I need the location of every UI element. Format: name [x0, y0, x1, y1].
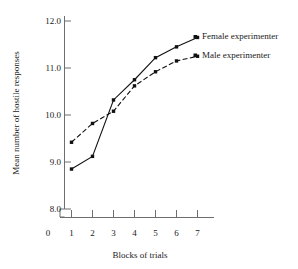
data-point — [70, 167, 73, 170]
legend-label-female: Female experimenter — [202, 31, 278, 41]
y-tick-label-2: 10.0 — [45, 110, 61, 120]
series-line — [72, 37, 198, 169]
series-male — [70, 55, 199, 144]
data-point — [70, 141, 73, 144]
x-tick-label-3: 4 — [132, 228, 137, 238]
data-point — [112, 110, 115, 113]
series-line — [72, 56, 198, 142]
data-point — [91, 155, 94, 158]
x-tick-marks — [72, 210, 198, 218]
line-chart-svg: 12.0 11.0 10.0 9.0 8.0 0 1 2 3 4 5 6 7 B… — [0, 0, 298, 269]
y-tick-label-4: 12.0 — [45, 16, 61, 26]
x-origin-label: 0 — [46, 228, 51, 238]
y-tick-label-0: 8.0 — [50, 204, 62, 214]
data-point — [133, 78, 136, 81]
series-layer — [70, 36, 199, 171]
y-tick-label-1: 9.0 — [50, 157, 62, 167]
data-point — [175, 59, 178, 62]
y-tick-label-3: 11.0 — [46, 63, 62, 73]
series-female — [70, 36, 199, 171]
y-axis-title: Mean number of hostile responses — [11, 51, 21, 175]
legend: Female experimenter Male experimenter — [194, 31, 279, 60]
y-tick-marks — [65, 21, 72, 209]
legend-label-male: Male experimenter — [202, 50, 270, 60]
data-point — [133, 84, 136, 87]
x-tick-label-2: 3 — [111, 228, 116, 238]
data-point — [154, 56, 157, 59]
x-tick-label-0: 1 — [69, 228, 74, 238]
data-point — [112, 98, 115, 101]
x-tick-label-6: 7 — [195, 228, 200, 238]
x-axis-title: Blocks of trials — [113, 250, 168, 260]
legend-marker-female — [194, 35, 198, 39]
x-tick-label-1: 2 — [90, 228, 95, 238]
x-tick-label-4: 5 — [153, 228, 158, 238]
data-point — [154, 70, 157, 73]
data-point — [91, 122, 94, 125]
x-tick-label-5: 6 — [174, 228, 179, 238]
legend-marker-male — [194, 54, 198, 58]
chart-container: 12.0 11.0 10.0 9.0 8.0 0 1 2 3 4 5 6 7 B… — [0, 0, 298, 269]
data-point — [175, 45, 178, 48]
